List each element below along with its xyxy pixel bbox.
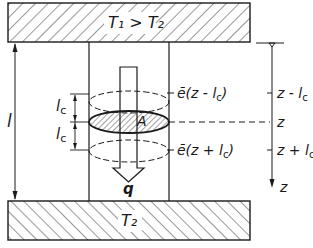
bottom-plate-label: T₂ bbox=[121, 213, 137, 229]
tick-0-sub: c bbox=[302, 92, 308, 103]
mixing-length-lower-label: lc bbox=[56, 127, 66, 142]
lower-energy-text: ē(z + l bbox=[177, 142, 223, 158]
axis-tick-z-plus-lc: z + lc bbox=[277, 143, 313, 157]
upper-energy-sub: c bbox=[216, 92, 222, 103]
lc-upper-sub: c bbox=[60, 104, 66, 117]
tick-1-text: z bbox=[277, 114, 284, 130]
height-label: l bbox=[7, 113, 12, 130]
lower-energy-sub: c bbox=[223, 149, 229, 160]
height-label-text: l bbox=[7, 111, 12, 131]
upper-energy-close: ) bbox=[222, 85, 227, 101]
mixing-length-dimension bbox=[70, 94, 89, 150]
top-plate-label-text: T₁ > T₂ bbox=[108, 13, 164, 32]
axis-label-text: z bbox=[280, 179, 287, 195]
lc-lower-sub: c bbox=[60, 132, 66, 145]
tick-2-sub: c bbox=[309, 149, 313, 160]
upper-energy-label: ē(z - lc) bbox=[177, 86, 227, 100]
height-dimension bbox=[13, 43, 18, 200]
tick-0-text: z - l bbox=[277, 85, 302, 101]
axis-tick-z-minus-lc: z - lc bbox=[277, 86, 308, 100]
cross-section-label: A bbox=[137, 114, 147, 128]
cross-section-label-text: A bbox=[137, 113, 147, 129]
axis-label: z bbox=[280, 180, 287, 194]
tick-2-text: z + l bbox=[277, 142, 309, 158]
mixing-length-upper-label: lc bbox=[56, 99, 66, 114]
axis-tick-z: z bbox=[277, 115, 284, 129]
flux-label: q bbox=[123, 182, 134, 197]
flux-label-text: q bbox=[123, 180, 134, 198]
upper-energy-text: ē(z - l bbox=[177, 85, 216, 101]
lower-energy-close: ) bbox=[228, 142, 233, 158]
lower-energy-label: ē(z + lc) bbox=[177, 143, 234, 157]
bottom-plate-label-text: T₂ bbox=[121, 211, 137, 230]
cross-section-a bbox=[89, 111, 169, 133]
top-plate-label: T₁ > T₂ bbox=[108, 15, 164, 31]
heat-flux-diagram: T₁ > T₂ T₂ l lc lc A q ē(z - lc) ē(z + l… bbox=[0, 0, 313, 248]
